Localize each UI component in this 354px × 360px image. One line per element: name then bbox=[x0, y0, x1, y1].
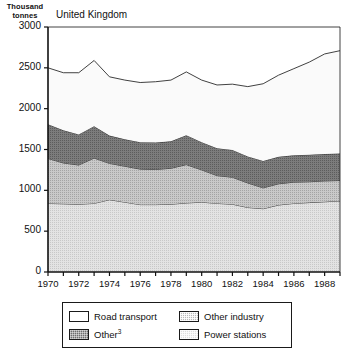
x-tick-label-1984: 1984 bbox=[246, 278, 280, 289]
legend-item-other: Other3 bbox=[69, 328, 175, 340]
y-tick-label-1500: 1500 bbox=[5, 143, 41, 154]
legend-label-other-footnote: 3 bbox=[118, 328, 122, 335]
x-tick-label-1970: 1970 bbox=[31, 278, 65, 289]
legend-label-road-transport: Road transport bbox=[94, 311, 157, 322]
x-tick-label-1982: 1982 bbox=[215, 278, 249, 289]
y-tick-label-2500: 2500 bbox=[5, 61, 41, 72]
legend-label-other-text: Other bbox=[94, 329, 118, 340]
power-stations-swatch bbox=[179, 329, 199, 340]
series-areas bbox=[48, 51, 340, 272]
legend-item-road-transport: Road transport bbox=[69, 311, 175, 322]
x-tick-label-1986: 1986 bbox=[277, 278, 311, 289]
y-tick-label-2000: 2000 bbox=[5, 102, 41, 113]
x-tick-label-1988: 1988 bbox=[308, 278, 342, 289]
legend-label-other-industry: Other industry bbox=[204, 311, 264, 322]
x-tick-label-1974: 1974 bbox=[92, 278, 126, 289]
legend-item-power-stations: Power stations bbox=[179, 329, 285, 340]
other-swatch bbox=[69, 329, 89, 340]
legend-label-power-stations: Power stations bbox=[204, 329, 266, 340]
legend-label-other: Other3 bbox=[94, 328, 121, 340]
y-tick-label-0: 0 bbox=[5, 265, 41, 276]
road-transport-swatch bbox=[69, 311, 89, 322]
area-power-stations bbox=[48, 200, 340, 272]
x-tick-label-1980: 1980 bbox=[185, 278, 219, 289]
x-tick-label-1972: 1972 bbox=[62, 278, 96, 289]
legend: Road transport Other industry Other3 Pow… bbox=[62, 302, 292, 348]
other-industry-swatch bbox=[179, 311, 199, 322]
y-tick-label-1000: 1000 bbox=[5, 183, 41, 194]
stacked-area-chart: Thousand tonnes United Kingdom 050010001… bbox=[0, 0, 354, 360]
x-tick-label-1978: 1978 bbox=[154, 278, 188, 289]
y-tick-label-3000: 3000 bbox=[5, 20, 41, 31]
x-tick-label-1976: 1976 bbox=[123, 278, 157, 289]
legend-item-other-industry: Other industry bbox=[179, 311, 285, 322]
y-tick-label-500: 500 bbox=[5, 224, 41, 235]
